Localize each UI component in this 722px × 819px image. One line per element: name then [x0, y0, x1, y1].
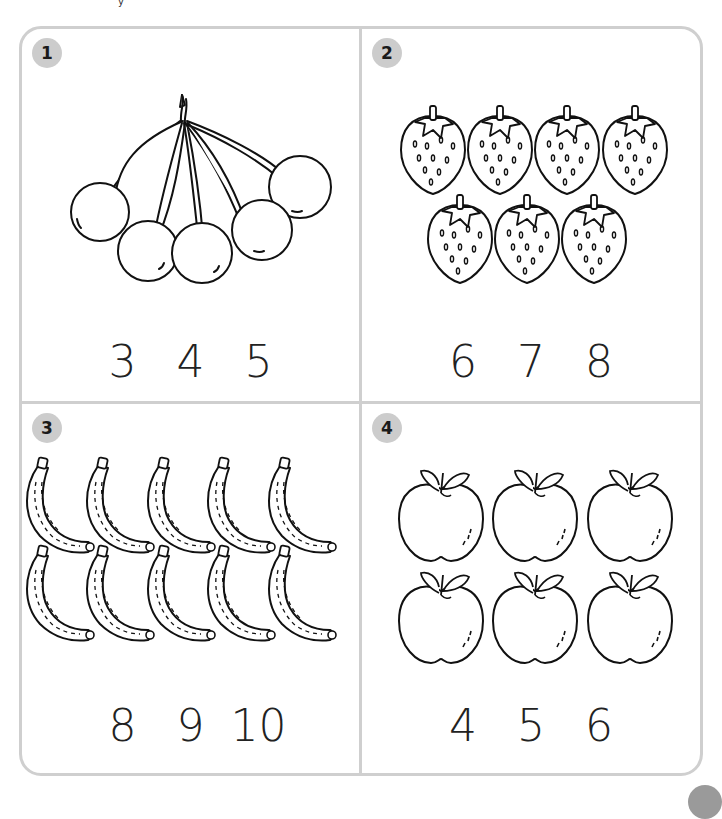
banana-icon — [148, 457, 215, 552]
apples-illustration — [362, 404, 700, 664]
problem-1-panel: 1 — [22, 29, 359, 401]
strawberry-icon — [603, 106, 667, 194]
banana-icon — [27, 457, 94, 552]
choice-option[interactable]: 9 — [157, 704, 225, 748]
apple-icon — [493, 573, 577, 663]
answer-choices: 3 4 5 — [22, 340, 359, 384]
banana-icon — [87, 457, 154, 552]
problem-4-panel: 4 4 5 6 — [362, 404, 700, 773]
strawberry-icon — [495, 195, 559, 283]
answer-choices: 4 5 6 — [362, 704, 700, 748]
banana-icon — [148, 545, 215, 640]
answer-choices: 8 9 10 — [22, 704, 359, 748]
strawberry-icon — [401, 106, 465, 194]
strawberry-icon — [535, 106, 599, 194]
choice-option[interactable]: 4 — [157, 340, 225, 384]
choice-option[interactable]: 4 — [429, 704, 497, 748]
apple-icon — [399, 471, 483, 561]
strawberry-icon — [562, 195, 626, 283]
answer-choices: 6 7 8 — [362, 340, 700, 384]
banana-icon — [208, 457, 275, 552]
choice-option[interactable]: 6 — [565, 704, 633, 748]
choice-option[interactable]: 3 — [89, 340, 157, 384]
apple-icon — [588, 471, 672, 561]
banana-icon — [87, 545, 154, 640]
cherries-illustration — [22, 29, 359, 329]
choice-option[interactable]: 7 — [497, 340, 565, 384]
choice-option[interactable]: 8 — [89, 704, 157, 748]
banana-icon — [27, 545, 94, 640]
choice-option[interactable]: 8 — [565, 340, 633, 384]
banana-icon — [269, 457, 336, 552]
choice-option[interactable]: 5 — [225, 340, 293, 384]
strawberry-icon — [468, 106, 532, 194]
strawberry-icon — [428, 195, 492, 283]
apple-icon — [399, 573, 483, 663]
top-text-fragment: y — [118, 0, 138, 6]
apple-icon — [588, 573, 672, 663]
banana-icon — [269, 545, 336, 640]
page-corner-marker — [688, 785, 722, 819]
choice-option[interactable]: 10 — [225, 704, 293, 748]
strawberries-illustration — [362, 29, 700, 329]
apple-icon — [493, 471, 577, 561]
choice-option[interactable]: 5 — [497, 704, 565, 748]
banana-icon — [208, 545, 275, 640]
bananas-illustration — [22, 404, 359, 664]
choice-option[interactable]: 6 — [429, 340, 497, 384]
problem-3-panel: 3 8 9 10 — [22, 404, 359, 773]
problem-2-panel: 2 — [362, 29, 700, 401]
